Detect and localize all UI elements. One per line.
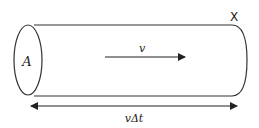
area-label: A [21, 54, 31, 69]
cylinder-right-end [232, 25, 247, 96]
cylinder-diagram: A v vΔt X [0, 0, 259, 128]
end-label: X [230, 10, 238, 24]
cylinder-body [34, 25, 247, 96]
length-label: vΔt [125, 112, 144, 125]
velocity-label: v [139, 42, 146, 55]
